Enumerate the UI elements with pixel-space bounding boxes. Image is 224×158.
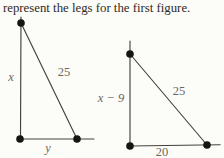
first-triangle-vertical-leg-label: x [7, 70, 14, 84]
triangles-figure: x 25 y x − 9 25 20 [0, 0, 224, 158]
second-triangle-hypotenuse [130, 54, 207, 145]
first-triangle-top-vertex-dot [17, 19, 25, 27]
second-triangle: x − 9 25 20 [97, 41, 220, 158]
first-triangle: x 25 y [7, 17, 94, 155]
first-triangle-bottom-left-vertex-dot [16, 135, 24, 143]
second-triangle-bottom-left-vertex-dot [126, 142, 134, 150]
second-triangle-hypotenuse-label: 25 [173, 84, 186, 98]
second-triangle-top-vertex-dot [126, 50, 134, 58]
first-triangle-horizontal-leg-label: y [43, 141, 51, 155]
first-triangle-bottom-right-vertex-dot [73, 135, 81, 143]
second-triangle-bottom-right-vertex-dot [203, 141, 211, 149]
second-triangle-horizontal-leg-label: 20 [156, 145, 169, 158]
second-triangle-vertical-leg-label: x − 9 [97, 91, 125, 105]
first-triangle-vertical-leg [21, 17, 22, 139]
first-triangle-hypotenuse-label: 25 [58, 65, 71, 79]
first-triangle-hypotenuse [21, 23, 77, 139]
